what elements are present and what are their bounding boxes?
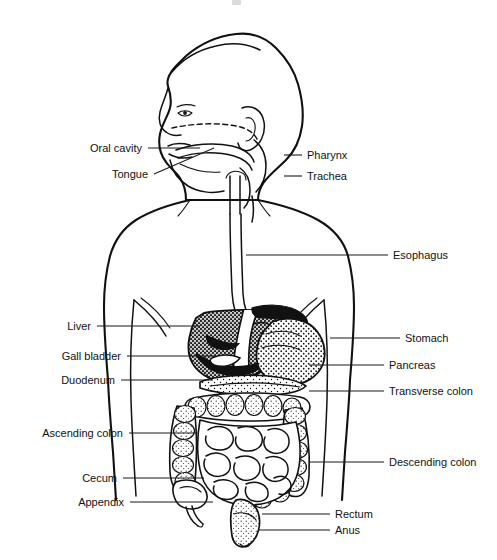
- label-appendix: Appendix: [78, 496, 124, 508]
- label-trachea: Trachea: [307, 170, 348, 182]
- label-rectum: Rectum: [335, 508, 373, 520]
- label-pharynx: Pharynx: [307, 149, 348, 161]
- head-profile: [159, 34, 303, 222]
- label-esophagus: Esophagus: [393, 249, 449, 261]
- rectum-anus: [231, 500, 260, 548]
- label-gall-bladder: Gall bladder: [62, 350, 122, 362]
- label-liver: Liver: [67, 320, 91, 332]
- small-intestine: [198, 420, 300, 505]
- label-anus: Anus: [335, 524, 361, 536]
- label-stomach: Stomach: [405, 332, 448, 344]
- label-oral-cavity: Oral cavity: [90, 142, 142, 154]
- label-descending-colon: Descending colon: [389, 456, 476, 468]
- anatomy-illustration: Oral cavity Tongue Liver Gall bladder Du…: [0, 0, 497, 560]
- label-cecum: Cecum: [82, 472, 117, 484]
- label-ascending-colon: Ascending colon: [42, 427, 123, 439]
- cecum: [173, 480, 207, 509]
- label-pancreas: Pancreas: [389, 359, 436, 371]
- label-tongue: Tongue: [112, 168, 148, 180]
- label-duodenum: Duodenum: [61, 374, 115, 386]
- label-transverse-colon: Transverse colon: [389, 385, 473, 397]
- digestive-system-diagram: Oral cavity Tongue Liver Gall bladder Du…: [0, 0, 497, 560]
